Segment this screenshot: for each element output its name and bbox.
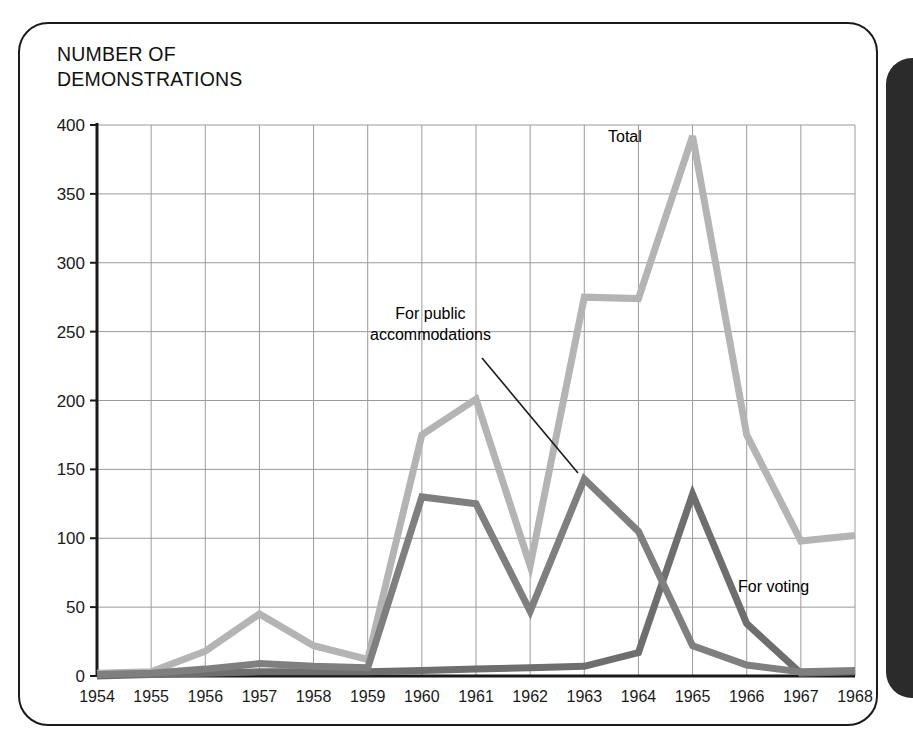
line-chart: 050100150200250300350400 195419551956195… [0,0,913,742]
x-tick-label: 1965 [675,688,711,705]
y-tick-label: 400 [57,116,85,135]
annotation-voting: For voting [738,578,809,596]
y-tick-label: 300 [57,254,85,273]
x-tick-label: 1962 [512,688,548,705]
x-tick-label: 1958 [296,688,332,705]
y-tick-label: 200 [57,392,85,411]
annotation-total: Total [608,128,642,146]
x-tick-label: 1957 [242,688,278,705]
x-tick-label: 1964 [621,688,657,705]
x-tick-label: 1963 [566,688,602,705]
y-tick-label: 350 [57,185,85,204]
x-tick-label: 1955 [133,688,169,705]
x-tick-label: 1967 [783,688,819,705]
figure-page: NUMBER OF DEMONSTRATIONS 050100150200250… [0,0,913,742]
y-tick-label: 0 [76,667,85,686]
y-tick-label: 250 [57,323,85,342]
x-tick-label: 1959 [350,688,386,705]
chart-svg: 050100150200250300350400 195419551956195… [0,0,913,742]
x-tick-label: 1954 [79,688,115,705]
x-tick-label: 1960 [404,688,440,705]
x-tick-labels: 1954195519561957195819591960196119621963… [79,688,873,705]
y-tick-label: 50 [66,598,85,617]
x-tick-label: 1961 [458,688,494,705]
annotation-public-accommodations: For public accommodations [370,303,491,345]
x-tick-label: 1956 [187,688,223,705]
x-tick-label: 1966 [729,688,765,705]
y-tick-labels: 050100150200250300350400 [57,116,97,686]
y-tick-label: 100 [57,529,85,548]
x-tick-label: 1968 [837,688,873,705]
y-tick-label: 150 [57,460,85,479]
